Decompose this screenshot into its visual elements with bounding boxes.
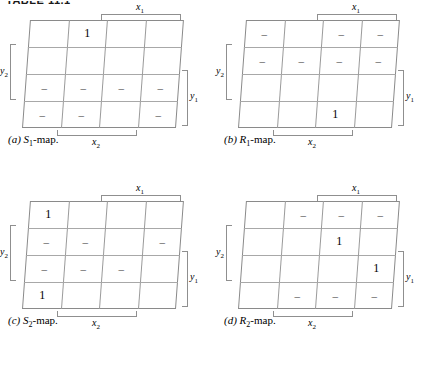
map-cell [144,20,183,47]
map-cell: – [358,47,397,74]
map-cell: – [322,20,361,47]
karnaugh-map-b: –––––––1x1x2y2y1(b) R1-map. [216,0,432,182]
map-cell: – [142,228,181,255]
caption-signal-name: R2 [240,314,251,326]
map-cell [140,255,179,282]
map-cell [138,282,177,309]
map-cell: – [360,201,399,228]
map-cell [354,101,393,128]
axis-label-x2: x2 [92,317,100,331]
caption-tag: (b) [224,133,237,145]
map-cell: 1 [316,101,355,128]
map-cell: – [360,20,399,47]
map-cell [241,74,279,101]
map-cell: – [63,74,102,101]
map-area-c: 1––––––1x1x2y2y1 [0,181,216,331]
axis-label-x1: x1 [136,182,144,196]
caption-tag: (c) [8,314,20,326]
map-cell: – [23,101,62,128]
map-cell [241,255,279,282]
map-cell [356,74,395,101]
map-cell: 1 [356,255,395,282]
map-cell [245,201,283,228]
map-cell: – [61,101,100,128]
karnaugh-map-d: –––11–––x1x2y2y1(d) R2-map. [216,181,432,363]
map-cell: – [283,201,322,228]
map-cell: – [281,47,320,74]
map-cell [283,20,322,47]
map-cell [67,201,106,228]
axis-label-x2: x2 [92,136,100,150]
map-cell [243,228,282,255]
map-cell: 1 [320,228,359,255]
map-area-a: 1–––––––x1x2y2y1 [0,0,216,150]
map-cell: – [354,282,393,309]
map-cell: – [25,255,64,282]
figure-caption-a: (a) S1-map. [8,133,58,148]
map-cell: – [322,201,361,228]
map-grid-b: –––––––1 [238,20,400,128]
map-cell [100,101,139,128]
bracket-y2 [226,225,232,281]
map-cell [104,47,143,74]
map-cell [279,255,318,282]
caption-suffix: -map. [250,133,275,145]
map-area-b: –––––––1x1x2y2y1 [216,0,432,150]
figure-page: TABLE 11.1 1–––––––x1x2y2y1(a) S1-map.––… [0,0,432,365]
axis-label-y1: y1 [190,271,198,285]
map-cell: 1 [23,282,62,309]
axis-label-y1: y1 [190,90,198,104]
map-cell [29,20,68,47]
map-grid-c: 1––––––1 [22,201,184,309]
map-cell [65,47,104,74]
caption-suffix: -map. [33,133,58,145]
grid-cells: –––––––1 [238,20,400,128]
map-cell [318,255,357,282]
bracket-y1 [398,70,404,126]
caption-signal-name: R1 [240,133,251,145]
grid-cells: 1––––––1 [22,201,184,309]
karnaugh-map-c: 1––––––1x1x2y2y1(c) S2-map. [0,181,216,363]
map-cell: 1 [29,201,68,228]
map-cell [106,201,145,228]
grid-cells: –––11––– [238,201,400,309]
bracket-y1 [398,251,404,307]
axis-label-y2: y2 [0,246,8,260]
map-cell: – [138,101,177,128]
map-cell [100,282,139,309]
map-cell [27,47,66,74]
map-cell [239,101,278,128]
axis-label-x2: x2 [308,317,316,331]
map-cell: – [140,74,179,101]
map-cell: – [63,255,102,282]
axis-label-y1: y1 [406,271,414,285]
map-area-d: –––11–––x1x2y2y1 [216,181,432,331]
axis-label-y2: y2 [0,65,8,79]
bracket-y2 [10,225,16,281]
map-cell: – [277,282,316,309]
map-cell [61,282,100,309]
map-cell [318,74,357,101]
bracket-y1 [182,70,188,126]
axis-label-x2: x2 [308,136,316,150]
bracket-y2 [226,44,232,100]
map-cell [144,201,183,228]
map-cell [358,228,397,255]
caption-suffix: -map. [32,314,57,326]
bracket-y1 [182,251,188,307]
map-cell [279,74,318,101]
axis-label-y2: y2 [216,246,224,260]
grid-cells: 1––––––– [22,20,184,128]
map-cell: – [320,47,359,74]
figure-caption-b: (b) R1-map. [224,133,276,148]
bracket-y2 [10,44,16,100]
map-grid-d: –––11––– [238,201,400,309]
map-cell: – [245,20,283,47]
caption-tag: (a) [8,133,21,145]
map-cell [277,101,316,128]
map-cell: 1 [67,20,106,47]
map-cell: – [102,255,141,282]
axis-label-x1: x1 [352,1,360,15]
map-cell [104,228,143,255]
axis-label-x1: x1 [352,182,360,196]
